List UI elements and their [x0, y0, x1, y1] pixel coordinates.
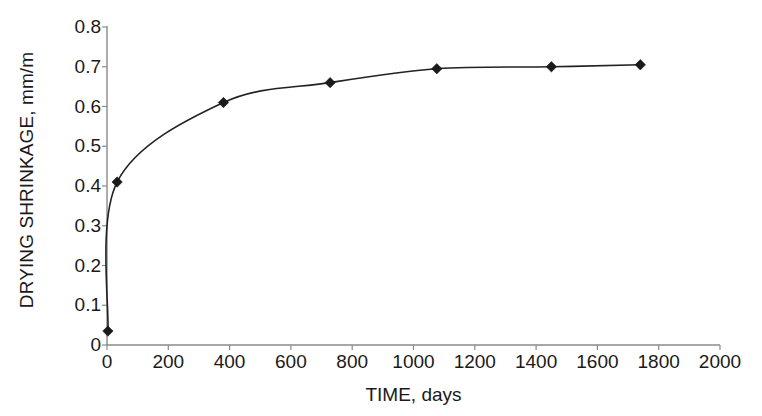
data-point-marker: [218, 97, 228, 107]
data-point-marker: [635, 60, 645, 70]
chart-figure: DRYING SHRINKAGE, mm/m 00.10.20.30.40.50…: [0, 0, 762, 416]
data-point-marker: [325, 77, 335, 87]
data-point-marker: [112, 177, 122, 187]
x-axis-title: TIME, days: [107, 384, 720, 406]
x-tick-label: 2000: [680, 352, 760, 371]
data-line: [106, 65, 640, 331]
x-axis-tick-labels: 0200400600800100012001400160018002000: [0, 352, 762, 378]
data-point-marker: [103, 326, 113, 336]
data-point-marker: [546, 62, 556, 72]
data-point-marker: [432, 64, 442, 74]
